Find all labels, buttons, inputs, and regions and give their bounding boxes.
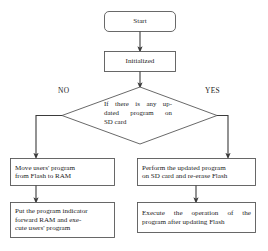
node-decision-label-line3: SD card xyxy=(104,118,172,127)
branch-label-no: NO xyxy=(58,86,69,95)
connector-decision-no xyxy=(36,116,62,157)
branch-label-no-text: NO xyxy=(58,86,69,95)
branch-label-yes-text: YES xyxy=(205,86,220,95)
node-perform-update-shape xyxy=(138,159,256,186)
branch-label-yes: YES xyxy=(205,86,220,95)
node-move-program-shape xyxy=(11,159,115,186)
node-execute-after-shape xyxy=(138,203,256,233)
node-decision-label-line2: dated program on xyxy=(104,109,172,118)
node-decision-label-line1: If there is any up- xyxy=(104,100,172,109)
connector-decision-yes xyxy=(217,116,228,157)
node-put-indicator-shape xyxy=(11,203,115,238)
flowchart-canvas: Start Initialized If there is any up- da… xyxy=(0,0,268,251)
node-initialized-shape xyxy=(105,52,176,72)
node-decision-label: If there is any up- dated program on SD … xyxy=(104,100,172,127)
node-start-shape xyxy=(105,12,176,32)
